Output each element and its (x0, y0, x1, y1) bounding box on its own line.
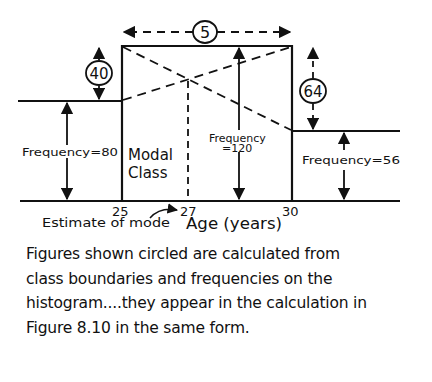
diagonal-dashed-line-1 (123, 47, 291, 130)
circled-figure-diff-before: 40 (86, 61, 112, 85)
caption: Figures shown circled are calculated fro… (26, 242, 426, 340)
tick-30: 30 (282, 204, 299, 219)
caption-line-4: Figure 8.10 in the same form. (26, 316, 426, 341)
caption-line-1: Figures shown circled are calculated fro… (26, 242, 426, 267)
freq-56-label: Frequency=56 (302, 154, 400, 167)
circled-figure-class-width: 5 (193, 21, 217, 43)
caption-line-2: class boundaries and frequencies on the (26, 267, 426, 292)
freq-80-label: Frequency=80 (22, 146, 118, 159)
svg-text:40: 40 (89, 65, 108, 83)
svg-text:64: 64 (303, 83, 322, 101)
x-axis-label: Age (years) (186, 215, 282, 233)
modal-class-label-line2: Class (128, 164, 168, 182)
diagonal-dashed-line-2 (123, 47, 291, 100)
circled-figure-diff-after: 64 (300, 79, 326, 103)
modal-class-label-line1: Modal (128, 146, 173, 164)
caption-line-3: histogram....they appear in the calculat… (26, 291, 426, 316)
freq-120-label-line2: =120 (222, 142, 252, 155)
svg-text:5: 5 (200, 23, 210, 42)
